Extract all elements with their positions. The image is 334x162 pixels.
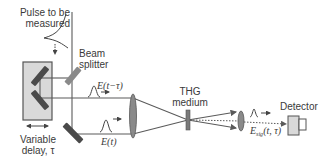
collimating-lens bbox=[238, 111, 244, 131]
field-signal-args: (t, τ) bbox=[263, 125, 281, 136]
beam-splitter-label-line2: splitter bbox=[79, 59, 108, 70]
input-pulse-label-line1: Pulse to be bbox=[18, 7, 70, 18]
variable-delay-label: Variable delay, τ bbox=[16, 134, 60, 156]
pulse-signal-icon bbox=[250, 109, 270, 117]
detector-label: Detector bbox=[280, 101, 318, 112]
detector-icon bbox=[288, 116, 306, 135]
variable-delay-label-line2: delay, τ bbox=[16, 145, 60, 156]
focusing-lens bbox=[130, 94, 137, 138]
variable-delay-label-line1: Variable bbox=[16, 134, 60, 145]
field-delayed-label: E(t−τ) bbox=[97, 80, 123, 91]
thg-medium-label: THG medium bbox=[169, 86, 211, 108]
field-signal-label: Esig(t, τ) bbox=[250, 125, 281, 140]
reference-mirror bbox=[62, 122, 83, 143]
pulse-reference-icon bbox=[100, 119, 121, 132]
input-pulse-label: Pulse to be measured bbox=[18, 7, 70, 29]
field-reference-label: E(t) bbox=[101, 136, 117, 147]
thg-frog-diagram: Pulse to be measured Beam splitter Varia… bbox=[0, 0, 334, 162]
input-pulse-label-line2: measured bbox=[18, 18, 70, 29]
thg-medium bbox=[186, 110, 190, 130]
beam-paths bbox=[40, 12, 236, 134]
thg-medium-label-line2: medium bbox=[169, 97, 211, 108]
beam-splitter-label-line1: Beam bbox=[79, 48, 108, 59]
thg-medium-label-line1: THG bbox=[169, 86, 211, 97]
beam-splitter-label: Beam splitter bbox=[79, 48, 108, 70]
